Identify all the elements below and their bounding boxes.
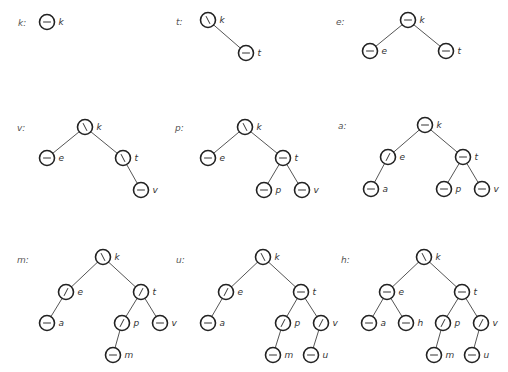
tree-node: v	[314, 316, 339, 331]
tree-node: a	[201, 316, 226, 331]
tree-panel: e:ket	[336, 13, 462, 59]
tree-node: e	[380, 285, 405, 300]
tree-node: k	[201, 13, 226, 28]
tree-panel: a:ketapv	[338, 118, 500, 197]
tree-node: e	[59, 285, 84, 300]
tree-node: t	[294, 285, 317, 300]
node-key-label: k	[220, 15, 226, 25]
tree-panel: h:ketahpvmu	[341, 250, 499, 363]
tree-node: a	[364, 182, 389, 197]
tree-node: e	[363, 44, 388, 59]
node-key-label: k	[59, 17, 65, 27]
tree-node: t	[116, 151, 139, 166]
tree-panel: u:ketapvmu	[176, 250, 339, 363]
tree-node: k	[238, 120, 263, 135]
node-key-label: k	[436, 252, 442, 262]
panel-label: m:	[17, 255, 29, 265]
node-key-label: k	[257, 122, 263, 132]
node-key-label: v	[172, 318, 178, 328]
node-key-label: v	[153, 185, 159, 195]
tree-node: k	[401, 13, 426, 28]
node-key-label: m	[446, 350, 455, 360]
node-key-label: k	[275, 252, 281, 262]
tree-node: t	[455, 285, 478, 300]
tree-node: a	[40, 316, 65, 331]
tree-panel: m:ketapvm	[17, 250, 178, 363]
tree-node: v	[475, 182, 500, 197]
tree-node: h	[399, 316, 424, 331]
panel-label: v:	[17, 123, 25, 133]
tree-node: k	[418, 118, 443, 133]
tree-panel: t:kt	[176, 13, 262, 61]
node-key-label: t	[313, 287, 317, 297]
node-key-label: t	[135, 153, 139, 163]
tree-node: p	[436, 316, 461, 331]
node-key-label: e	[238, 287, 244, 297]
tree-node: e	[381, 150, 406, 165]
tree-node: e	[219, 285, 244, 300]
panel-label: u:	[176, 255, 185, 265]
tree-node: v	[474, 316, 499, 331]
panel-label: p:	[174, 123, 184, 133]
node-key-label: p	[133, 318, 140, 328]
node-key-label: a	[383, 184, 389, 194]
tree-node: t	[439, 44, 462, 59]
panel-label: k:	[18, 18, 26, 28]
tree-node: u	[465, 348, 490, 363]
node-key-label: h	[418, 318, 424, 328]
tree-node: v	[153, 316, 178, 331]
tree-node: k	[78, 120, 103, 135]
tree-node: k	[40, 15, 65, 30]
tree-panel: k:k	[18, 15, 65, 30]
tree-node: k	[96, 250, 121, 265]
panel-label: t:	[176, 17, 183, 27]
tree-node: p	[437, 182, 462, 197]
node-key-label: v	[314, 185, 320, 195]
tree-node: t	[134, 285, 157, 300]
node-key-label: k	[420, 15, 426, 25]
node-key-label: t	[458, 46, 462, 56]
panel-label: e:	[336, 17, 345, 27]
tree-node: m	[266, 348, 294, 363]
node-key-label: e	[382, 46, 388, 56]
node-key-label: e	[399, 287, 405, 297]
node-key-label: e	[59, 153, 65, 163]
tree-node: v	[295, 183, 320, 198]
tree-node: p	[257, 183, 282, 198]
tree-panel: v:ketv	[17, 120, 159, 198]
node-key-label: m	[125, 350, 134, 360]
node-key-label: k	[115, 252, 121, 262]
node-key-label: t	[295, 153, 299, 163]
node-key-label: a	[59, 318, 65, 328]
node-key-label: e	[220, 153, 226, 163]
node-key-label: v	[494, 184, 500, 194]
tree-node: m	[106, 348, 134, 363]
tree-node: k	[256, 250, 281, 265]
node-key-label: v	[493, 318, 499, 328]
node-key-label: k	[97, 122, 103, 132]
panel-label: a:	[338, 121, 347, 131]
tree-node: t	[239, 46, 262, 61]
node-key-label: v	[333, 318, 339, 328]
node-key-label: p	[455, 184, 462, 194]
tree-node: t	[276, 151, 299, 166]
tree-node: u	[304, 348, 329, 363]
tree-node: t	[456, 150, 479, 165]
node-key-label: p	[454, 318, 461, 328]
node-key-label: u	[323, 350, 329, 360]
tree-panel: p:ketpv	[174, 120, 320, 198]
node-key-label: t	[258, 48, 262, 58]
tree-node: p	[276, 316, 301, 331]
panel-label: h:	[341, 255, 350, 265]
node-key-label: u	[484, 350, 490, 360]
tree-node: k	[417, 250, 442, 265]
node-key-label: k	[437, 120, 443, 130]
tree-node: e	[40, 151, 65, 166]
node-key-label: a	[220, 318, 226, 328]
node-key-label: t	[475, 152, 479, 162]
node-key-label: p	[275, 185, 282, 195]
node-key-label: e	[78, 287, 84, 297]
node-key-label: m	[285, 350, 294, 360]
tree-node: a	[362, 316, 387, 331]
node-key-label: p	[294, 318, 301, 328]
